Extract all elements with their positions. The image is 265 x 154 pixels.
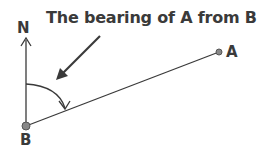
point-b-label: B [20, 133, 31, 148]
point-a-dot [216, 49, 222, 55]
line-b-to-a [26, 52, 219, 126]
bearing-angle-arc [26, 84, 65, 108]
diagram-title: The bearing of A from B [46, 10, 257, 26]
annotation-arrow [63, 36, 100, 73]
north-label: N [17, 21, 30, 36]
point-a-label: A [226, 45, 238, 60]
point-b-dot [22, 122, 30, 130]
bearing-diagram: The bearing of A from B N A B [0, 0, 265, 154]
